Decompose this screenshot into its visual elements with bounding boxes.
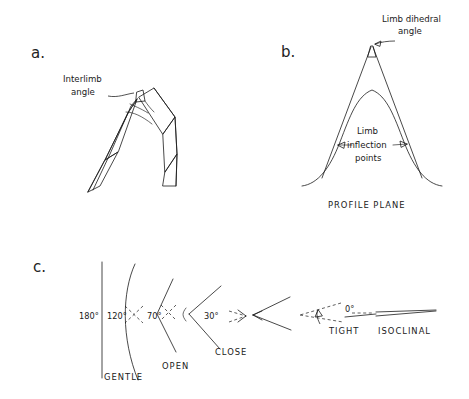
panel-a-letter: a. (31, 44, 45, 62)
boundary-120 (125, 264, 138, 380)
fold-left-limb (88, 99, 137, 192)
panel-c-letter: c. (33, 258, 46, 276)
category-isoclinal: ISOCLINAL (378, 326, 431, 336)
panel-a: a. Interlimb angle (31, 44, 177, 192)
fold-classification-figure: a. Interlimb angle (0, 0, 469, 399)
wedge-close (253, 297, 291, 330)
limb-inflection-points-label: Limb inflection points (347, 126, 387, 163)
interlimb-angle-leader (108, 93, 134, 97)
limb-dihedral-angle-label: Limb dihedral angle (382, 14, 441, 36)
dihedral-line1: Limb dihedral (382, 14, 441, 24)
tight-pointer (315, 310, 322, 324)
category-close: CLOSE (215, 347, 247, 357)
inflection-arrow-right (393, 141, 407, 147)
angle-label-120: 120° (107, 311, 127, 321)
interlimb-angle-line1: Interlimb (63, 74, 102, 84)
panel-b-letter: b. (281, 43, 295, 61)
wedge-tight (300, 303, 343, 322)
dihedral-angle-marker (368, 46, 376, 57)
panel-c: c. (33, 258, 436, 382)
category-open: OPEN (162, 361, 189, 371)
profile-plane-caption: PROFILE PLANE (328, 200, 406, 210)
category-tight: TIGHT (328, 326, 360, 336)
panel-b: b. Limb dihedral angle Limb inflection p… (281, 14, 442, 210)
fold-right-limb (139, 88, 177, 186)
interlimb-angle-label: Interlimb angle (63, 74, 102, 97)
wedge-marker-120 (125, 306, 143, 323)
boundary-30 (229, 310, 246, 322)
inflection-line2: inflection (347, 140, 387, 150)
dihedral-arrowhead (375, 41, 381, 46)
inflection-line3: points (355, 153, 382, 163)
dihedral-line2: angle (398, 26, 422, 36)
isoclinal-limbs (345, 310, 436, 317)
angle-label-0: 0° (345, 304, 354, 314)
inflection-line1: Limb (357, 126, 378, 136)
category-gentle: GENTLE (104, 372, 143, 382)
angle-label-30: 30° (204, 311, 219, 321)
fold-profile-curve (302, 90, 442, 186)
interlimb-angle-line2: angle (71, 87, 95, 97)
angle-label-180: 180° (79, 311, 99, 321)
angle-label-70: 70° (147, 311, 162, 321)
